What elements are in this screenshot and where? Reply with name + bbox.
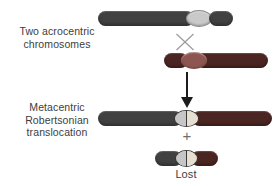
fused-centromere-left-half	[175, 111, 187, 126]
label-lost: Lost	[156, 168, 216, 181]
down-arrow-icon	[180, 72, 194, 108]
lost-fused-centromere	[175, 150, 198, 167]
cross-icon	[175, 33, 195, 51]
lost-centromere-left-half	[176, 151, 187, 166]
robertsonian-translocation-diagram: Two acrocentric chromosomes Metacentric …	[0, 0, 274, 186]
label-metacentric-robertsonian-translocation: Metacentric Robertsonian translocation	[6, 101, 108, 139]
gray-long-arm	[98, 11, 194, 26]
fused-centromere	[174, 110, 199, 127]
maroon-centromere	[181, 52, 207, 69]
lost-centromere-right-half	[187, 151, 198, 166]
metacentric-maroon-arm	[192, 111, 272, 126]
label-two-acrocentric-chromosomes: Two acrocentric chromosomes	[6, 25, 108, 50]
plus-symbol: +	[178, 128, 196, 143]
gray-short-arm	[209, 11, 233, 26]
fused-centromere-right-half	[187, 111, 199, 126]
metacentric-gray-arm	[98, 111, 182, 126]
